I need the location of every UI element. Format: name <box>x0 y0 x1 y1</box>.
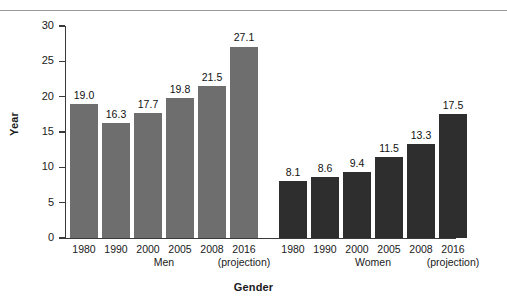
bar[interactable] <box>198 86 226 238</box>
bar[interactable] <box>102 123 130 238</box>
bar-value-label: 27.1 <box>224 32 264 43</box>
bar-value-label: 17.5 <box>433 100 473 111</box>
bar[interactable] <box>343 172 371 238</box>
bar-value-label: 16.3 <box>96 109 136 120</box>
bar[interactable] <box>166 98 194 238</box>
bar-chart-figure: Year Gender 051015202530 19.0198016.3199… <box>0 0 507 303</box>
x-axis-group-label: Men <box>70 256 258 268</box>
bar[interactable] <box>230 47 258 239</box>
plot-area: 19.0198016.3199017.7200019.8200521.52008… <box>0 0 507 303</box>
bar-value-label: 13.3 <box>401 130 441 141</box>
bar-value-label: 21.5 <box>192 72 232 83</box>
bar-value-label: 9.4 <box>337 158 377 169</box>
x-axis-group-label: Women <box>279 256 467 268</box>
bar[interactable] <box>134 113 162 238</box>
bar[interactable] <box>70 104 98 238</box>
bar-value-label: 19.8 <box>160 84 200 95</box>
bar[interactable] <box>375 157 403 238</box>
bar-value-label: 17.7 <box>128 99 168 110</box>
x-axis-category-label: 2016 <box>433 243 473 255</box>
bar[interactable] <box>279 181 307 238</box>
bar[interactable] <box>407 144 435 238</box>
bar[interactable] <box>311 177 339 238</box>
bar[interactable] <box>439 114 467 238</box>
x-axis-category-label: 2016 <box>224 243 264 255</box>
bar-value-label: 11.5 <box>369 143 409 154</box>
bar-value-label: 19.0 <box>64 90 104 101</box>
